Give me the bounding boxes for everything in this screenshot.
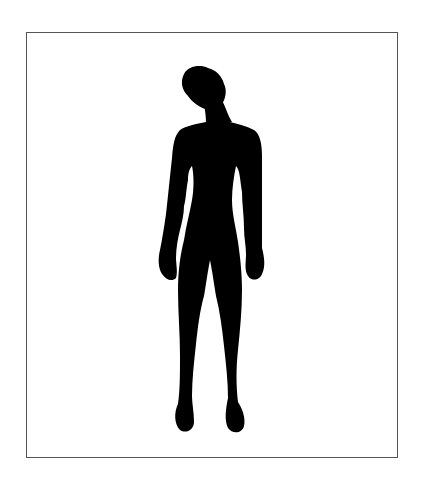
silhouette-body (159, 66, 265, 432)
human-silhouette (0, 0, 424, 489)
silhouette-torso (159, 122, 265, 432)
silhouette-neck (204, 100, 232, 124)
